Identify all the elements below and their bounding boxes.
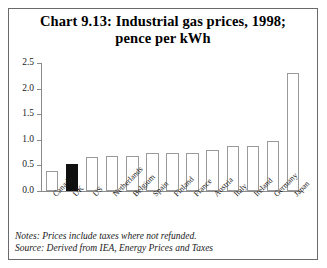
chart-title-line-2: pence per kWh — [9, 30, 317, 47]
y-axis-tick-label: 1.0 — [22, 134, 34, 144]
y-axis-tick-mark — [37, 165, 41, 166]
y-axis-tick-mark — [37, 191, 41, 192]
chart-figure: Chart 9.13: Industrial gas prices, 1998;… — [8, 8, 318, 260]
bar-slot — [86, 63, 98, 191]
bar-slot — [227, 63, 239, 191]
source-line: Source: Derived from IEA, Energy Prices … — [15, 243, 315, 255]
bar-slot — [267, 63, 279, 191]
bar-slot — [106, 63, 118, 191]
y-axis-tick-mark — [37, 114, 41, 115]
chart-title: Chart 9.13: Industrial gas prices, 1998;… — [9, 13, 317, 47]
y-axis-tick-label: 1.5 — [22, 108, 34, 118]
bar-slot — [146, 63, 158, 191]
y-axis-tick-label: 2.5 — [22, 57, 34, 67]
y-axis-tick-mark — [37, 89, 41, 90]
bar-ireland — [247, 146, 259, 191]
y-axis-tick-label: 0.0 — [22, 185, 34, 195]
chart-title-line-1: Chart 9.13: Industrial gas prices, 1998; — [9, 13, 317, 30]
bar-slot — [166, 63, 178, 191]
bar-slot — [206, 63, 218, 191]
bar-slot — [66, 63, 78, 191]
bar-slot — [247, 63, 259, 191]
bar-series — [42, 63, 303, 191]
y-axis-tick-mark — [37, 63, 41, 64]
y-axis-tick-label: 2.0 — [22, 83, 34, 93]
y-axis-tick-mark — [37, 140, 41, 141]
y-axis-tick-label: 0.5 — [22, 159, 34, 169]
plot-area: 0.00.51.01.52.02.5 — [41, 63, 303, 191]
notes-line: Notes: Prices include taxes where not re… — [15, 231, 315, 243]
bar-slot — [186, 63, 198, 191]
bar-slot — [46, 63, 58, 191]
chart-footnotes: Notes: Prices include taxes where not re… — [15, 231, 315, 254]
